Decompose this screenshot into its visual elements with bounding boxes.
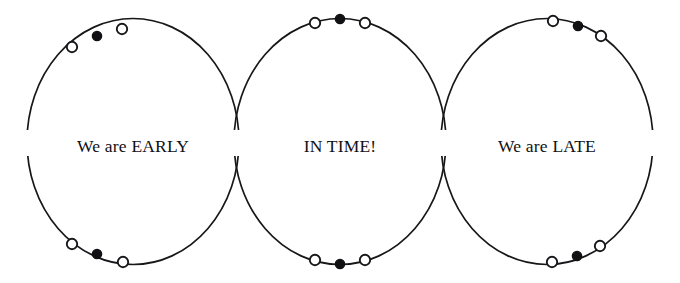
marker-open-icon	[547, 257, 557, 267]
marker-open-icon	[67, 239, 77, 249]
marker-open-icon	[360, 255, 370, 265]
orbit-in-time-top-markers	[310, 14, 370, 28]
orbit-diagram-canvas: We are EARLY IN TIME! We are LATE	[0, 0, 680, 283]
marker-filled-icon	[335, 14, 344, 23]
marker-filled-icon	[92, 31, 101, 40]
orbit-figure: We are EARLY IN TIME! We are LATE	[0, 0, 680, 283]
marker-filled-icon	[572, 251, 581, 260]
marker-filled-icon	[573, 21, 582, 30]
orbit-label-early: We are EARLY	[77, 136, 189, 156]
marker-open-icon	[310, 18, 320, 28]
marker-open-icon	[548, 16, 558, 26]
marker-filled-icon	[92, 249, 101, 258]
orbit-early-bottom-markers	[67, 239, 128, 267]
orbit-late-bottom-markers	[547, 241, 605, 267]
orbit-label-in-time: IN TIME!	[304, 136, 377, 156]
marker-open-icon	[596, 31, 606, 41]
orbit-late-top-markers	[548, 16, 606, 41]
orbit-in-time-bottom-markers	[310, 255, 370, 269]
orbit-label-late: We are LATE	[498, 136, 596, 156]
marker-filled-icon	[335, 259, 344, 268]
marker-open-icon	[117, 24, 127, 34]
marker-open-icon	[67, 42, 77, 52]
marker-open-icon	[310, 255, 320, 265]
marker-open-icon	[595, 241, 605, 251]
marker-open-icon	[360, 18, 370, 28]
marker-open-icon	[118, 257, 128, 267]
